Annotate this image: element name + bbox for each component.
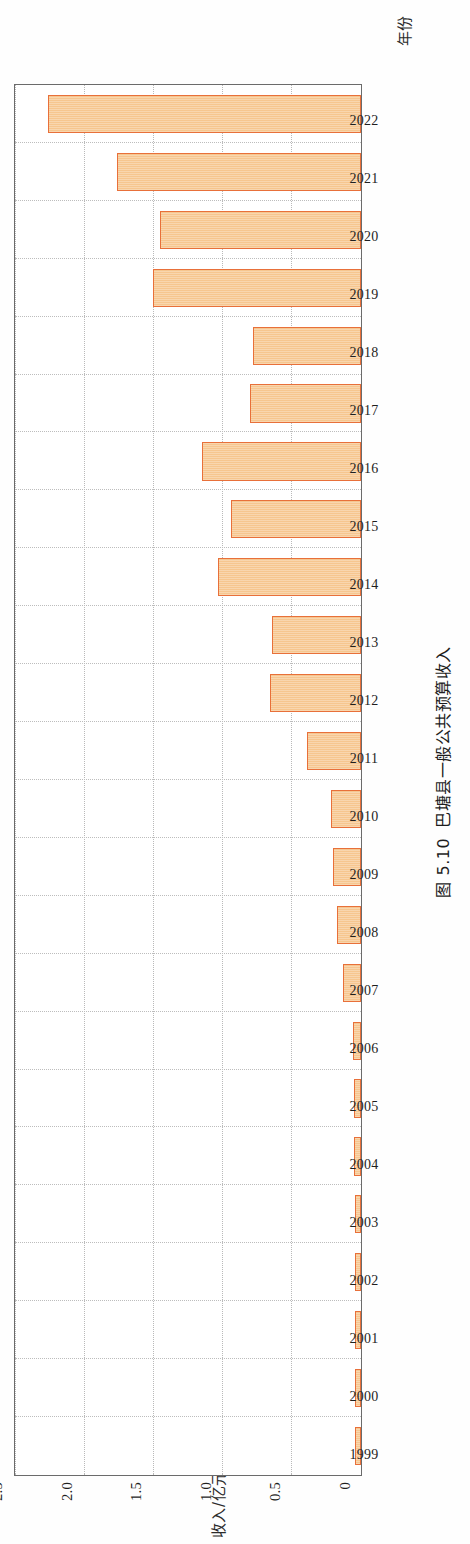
gridline (15, 605, 361, 606)
gridline (15, 1416, 361, 1417)
bar (270, 674, 361, 712)
x-tick-label: 2004 (349, 1157, 378, 1173)
x-tick-label: 2018 (349, 345, 378, 361)
x-tick-label: 2003 (349, 1215, 378, 1231)
bar (218, 558, 361, 596)
x-tick-label: 2000 (349, 1389, 378, 1405)
x-axis-title: 年份 (393, 16, 414, 46)
x-tick-label: 2016 (349, 461, 378, 477)
x-tick-label: 2008 (349, 925, 378, 941)
x-tick-label: 2015 (349, 519, 378, 535)
gridline (15, 663, 361, 664)
chart-area: 收入/亿元 00.51.01.52.02.5 19992000200120022… (14, 0, 420, 1544)
bar (253, 327, 361, 365)
bar (231, 500, 361, 538)
bar (153, 269, 361, 307)
gridline (15, 1069, 361, 1070)
gridline (15, 1300, 361, 1301)
gridline (15, 1184, 361, 1185)
rotated-figure-container: 收入/亿元 00.51.01.52.02.5 19992000200120022… (0, 0, 470, 1544)
x-tick-label: 2019 (349, 287, 378, 303)
bar (202, 442, 361, 480)
plot-box (14, 84, 362, 1476)
gridline (15, 200, 361, 201)
gridline (15, 142, 361, 143)
gridline (15, 1242, 361, 1243)
y-axis-tick-labels: 00.51.01.52.02.5 (14, 1480, 362, 1514)
figure-caption: 图 5.10巴塘县一般公共预算收入 (420, 0, 470, 1544)
figure-page: 收入/亿元 00.51.01.52.02.5 19992000200120022… (0, 0, 470, 1544)
gridline (15, 489, 361, 490)
x-axis-tick-labels: 1999200020012002200320042005200620072008… (362, 84, 420, 1476)
x-tick-label: 1999 (349, 1447, 378, 1463)
figure: 收入/亿元 00.51.01.52.02.5 19992000200120022… (0, 0, 470, 1544)
bar (272, 616, 361, 654)
gridline (15, 547, 361, 548)
bar (250, 384, 361, 422)
gridline (15, 895, 361, 896)
figure-caption-text: 巴塘县一般公共预算收入 (434, 646, 453, 828)
gridline (15, 85, 16, 1475)
gridline (15, 374, 361, 375)
gridline (15, 1127, 361, 1128)
figure-number: 图 5.10 (434, 838, 453, 898)
bar (48, 95, 361, 133)
gridline (15, 1358, 361, 1359)
x-tick-label: 2009 (349, 867, 378, 883)
x-tick-label: 2022 (349, 113, 378, 129)
x-tick-label: 2010 (349, 809, 378, 825)
x-tick-label: 2021 (349, 171, 378, 187)
x-tick-label: 2007 (349, 983, 378, 999)
bar (117, 153, 361, 191)
x-tick-label: 2001 (349, 1331, 378, 1347)
x-tick-label: 2002 (349, 1273, 378, 1289)
x-tick-label: 2013 (349, 635, 378, 651)
gridline (15, 258, 361, 259)
x-tick-label: 2005 (349, 1099, 378, 1115)
x-tick-label: 2020 (349, 229, 378, 245)
x-tick-label: 2006 (349, 1041, 378, 1057)
gridline (15, 432, 361, 433)
y-tick-label: 1.5 (128, 1482, 145, 1501)
y-tick-label: 1.0 (197, 1482, 214, 1501)
gridline (84, 85, 85, 1475)
gridline (15, 837, 361, 838)
x-tick-label: 2017 (349, 403, 378, 419)
gridline (15, 721, 361, 722)
y-tick-label: 2.5 (0, 1482, 6, 1501)
x-tick-label: 2012 (349, 693, 378, 709)
gridline (15, 1011, 361, 1012)
bar (160, 211, 361, 249)
y-tick-label: 0 (337, 1482, 354, 1490)
x-tick-label: 2011 (350, 751, 379, 767)
gridline (15, 779, 361, 780)
gridline (15, 953, 361, 954)
y-tick-label: 2.0 (58, 1482, 75, 1501)
y-tick-label: 0.5 (267, 1482, 284, 1501)
x-tick-label: 2014 (349, 577, 378, 593)
gridline (15, 316, 361, 317)
